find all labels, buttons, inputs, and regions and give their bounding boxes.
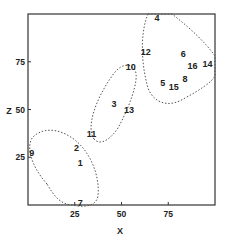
x-tick-label: 25: [70, 209, 80, 219]
cluster-outlines: [30, 14, 215, 206]
point-label-2: 2: [74, 143, 79, 153]
point-label-10: 10: [126, 62, 136, 72]
x-tick-label: 75: [164, 209, 174, 219]
x-tick-label: 50: [117, 209, 127, 219]
point-label-4: 4: [155, 13, 160, 23]
scatter-chart: 255075255075 12345678910111213141516 X Z: [0, 0, 225, 242]
point-label-6: 6: [181, 49, 186, 59]
x-axis-label: X: [117, 226, 123, 236]
point-label-5: 5: [160, 78, 165, 88]
point-label-12: 12: [141, 47, 151, 57]
point-label-16: 16: [188, 61, 198, 71]
point-label-11: 11: [87, 129, 97, 139]
point-label-8: 8: [183, 74, 188, 84]
point-label-14: 14: [203, 59, 213, 69]
plot-frame: [28, 14, 215, 205]
y-tick-label: 75: [16, 57, 26, 67]
point-label-3: 3: [112, 99, 117, 109]
point-label-7: 7: [78, 198, 83, 208]
y-axis-label: Z: [6, 106, 12, 116]
point-labels: 12345678910111213141516: [29, 13, 212, 208]
y-tick-label: 25: [16, 152, 26, 162]
point-label-13: 13: [124, 105, 134, 115]
y-tick-label: 50: [16, 105, 26, 115]
cluster-lower-left-outline: [30, 130, 99, 206]
point-label-15: 15: [169, 82, 179, 92]
point-label-9: 9: [29, 148, 34, 158]
point-label-1: 1: [78, 158, 83, 168]
